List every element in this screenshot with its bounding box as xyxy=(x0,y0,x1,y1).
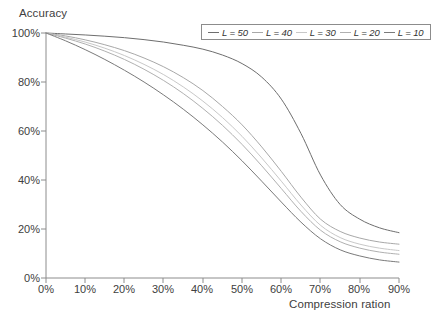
legend-swatch-icon xyxy=(252,32,263,33)
legend-label: L = 30 xyxy=(310,27,336,38)
legend-swatch-icon xyxy=(384,32,395,33)
legend-label: L = 50 xyxy=(222,27,248,38)
y-axis-ticks xyxy=(41,33,46,278)
legend-entry-l50[interactable]: L = 50 xyxy=(208,27,248,38)
series-line-l20 xyxy=(46,33,399,254)
legend: L = 50L = 40L = 30L = 20L = 10 xyxy=(201,24,431,40)
legend-label: L = 40 xyxy=(266,27,292,38)
legend-swatch-icon xyxy=(208,32,219,33)
series-line-l50 xyxy=(46,33,399,233)
legend-entry-l10[interactable]: L = 10 xyxy=(384,27,424,38)
legend-label: L = 10 xyxy=(398,27,424,38)
legend-swatch-icon xyxy=(340,32,351,33)
x-axis-ticks xyxy=(46,278,399,283)
legend-entry-l30[interactable]: L = 30 xyxy=(296,27,336,38)
legend-swatch-icon xyxy=(296,32,307,33)
series-line-l40 xyxy=(46,33,399,244)
axis-frame xyxy=(46,33,399,278)
data-series-group xyxy=(46,33,399,262)
series-line-l10 xyxy=(46,33,399,262)
legend-entry-l20[interactable]: L = 20 xyxy=(340,27,380,38)
legend-label: L = 20 xyxy=(354,27,380,38)
legend-entry-l40[interactable]: L = 40 xyxy=(252,27,292,38)
